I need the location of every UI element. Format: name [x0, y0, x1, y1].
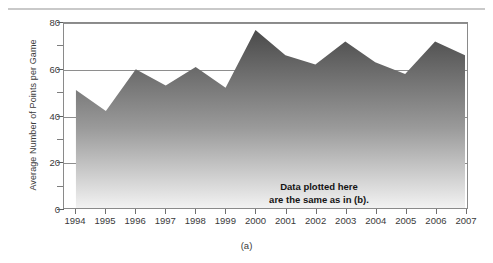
area-series-points-per-game: [64, 23, 467, 208]
x-tick-1995: [105, 209, 106, 214]
x-tick-label-2000: 2000: [245, 215, 266, 226]
x-axis-tick-labels: 1994199519961997199819992000200120022003…: [63, 215, 468, 231]
x-tick-1997: [165, 209, 166, 214]
plot-area: Data plotted here are the same as in (b)…: [63, 22, 468, 209]
x-tick-label-2002: 2002: [305, 215, 326, 226]
x-tick-2000: [255, 209, 256, 214]
x-tick-label-2001: 2001: [275, 215, 296, 226]
figure-panel-a: Average Number of Points per Game 020406…: [0, 0, 493, 263]
x-tick-label-1994: 1994: [64, 215, 85, 226]
x-tick-label-2006: 2006: [425, 215, 446, 226]
x-tick-label-2005: 2005: [395, 215, 416, 226]
x-tick-label-2003: 2003: [335, 215, 356, 226]
x-tick-label-1995: 1995: [94, 215, 115, 226]
x-tick-1996: [135, 209, 136, 214]
x-tick-2006: [436, 209, 437, 214]
x-tick-label-2007: 2007: [455, 215, 476, 226]
x-tick-2001: [286, 209, 287, 214]
x-tick-2005: [406, 209, 407, 214]
x-tick-label-1998: 1998: [185, 215, 206, 226]
figure-caption: (a): [0, 240, 493, 251]
x-tick-1998: [195, 209, 196, 214]
x-tick-2003: [346, 209, 347, 214]
x-tick-2007: [466, 209, 467, 214]
x-tick-label-2004: 2004: [365, 215, 386, 226]
x-tick-label-1996: 1996: [125, 215, 146, 226]
top-divider-rule: [8, 8, 485, 10]
x-tick-2004: [376, 209, 377, 214]
x-tick-1999: [225, 209, 226, 214]
y-axis-title: Average Number of Points per Game: [28, 20, 38, 210]
x-tick-label-1997: 1997: [155, 215, 176, 226]
x-tick-2002: [316, 209, 317, 214]
x-tick-label-1999: 1999: [215, 215, 236, 226]
x-tick-1994: [75, 209, 76, 214]
